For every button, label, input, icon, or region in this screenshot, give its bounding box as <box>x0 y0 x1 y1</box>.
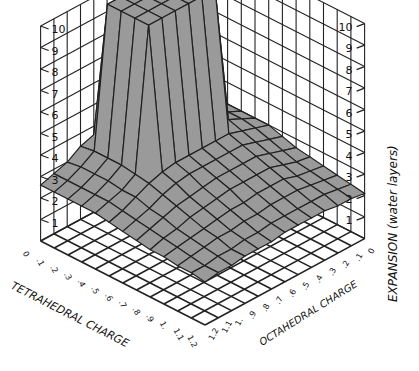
y-tick-label: .6 <box>287 288 299 299</box>
y-tick-label: .3 <box>327 266 339 277</box>
x-tick-label: .6 <box>103 292 115 303</box>
z-tick-label: 7 <box>346 85 353 98</box>
y-tick-label: .5 <box>300 281 312 292</box>
z-tick-label: 1 <box>52 217 59 230</box>
x-tick-label: .2 <box>48 264 60 275</box>
x-axis-label: TETRAHEDRAL CHARGE <box>9 279 131 350</box>
z-tick-label: 10 <box>339 21 353 34</box>
y-tick-label: .4 <box>313 273 325 284</box>
x-tick-label: .9 <box>144 313 156 324</box>
z-tick-label: 1 <box>346 214 353 227</box>
z-tick-label: 10 <box>52 23 66 36</box>
z-tick-label: 4 <box>346 150 353 163</box>
x-tick-label: .7 <box>117 299 129 310</box>
x-tick-label: .4 <box>76 278 88 289</box>
z-tick-label: 8 <box>346 64 353 77</box>
z-tick-label: 2 <box>346 193 353 206</box>
y-tick-label: .1 <box>353 252 365 263</box>
x-tick-label: .3 <box>62 271 74 282</box>
x-tick-label: 1.1 <box>172 327 186 342</box>
y-tick-label: .8 <box>260 302 272 313</box>
x-tick-label: 0 <box>21 250 31 259</box>
y-tick-label: .7 <box>273 295 285 306</box>
z-tick-label: 4 <box>52 152 59 165</box>
y-tick-label: 1.1 <box>220 319 234 334</box>
y-tick-label: 1.2 <box>207 326 221 341</box>
z-tick-label: 5 <box>52 131 59 144</box>
y-tick-label: .9 <box>247 309 259 320</box>
x-tick-label: 1. <box>158 320 170 331</box>
z-tick-label: 6 <box>346 107 353 120</box>
z-tick-label: 3 <box>52 174 59 187</box>
x-tick-label: .5 <box>89 285 101 296</box>
x-tick-label: 1.2 <box>185 334 199 349</box>
z-tick-label: 3 <box>346 171 353 184</box>
y-tick-label: 0 <box>366 247 376 256</box>
y-tick-label: .2 <box>340 259 352 270</box>
x-tick-label: .8 <box>130 306 142 317</box>
x-tick-label: .1 <box>35 257 47 268</box>
z-tick-label: 9 <box>52 45 59 58</box>
y-tick-label: 1. <box>233 317 245 328</box>
z-tick-label: 2 <box>52 195 59 208</box>
z-axis-label: EXPANSION (water layers) <box>386 145 400 302</box>
z-tick-label: 9 <box>346 42 353 55</box>
z-tick-label: 5 <box>346 128 353 141</box>
z-tick-label: 6 <box>52 109 59 122</box>
z-tick-label: 8 <box>52 66 59 79</box>
surface-chart: 12345678910 12345678910 0.1.2.3.4.5.6.7.… <box>0 0 419 371</box>
z-tick-label: 7 <box>52 88 59 101</box>
